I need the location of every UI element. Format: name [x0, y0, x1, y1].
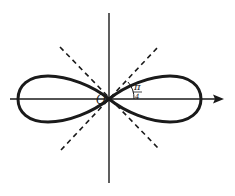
origin-label: O — [96, 93, 106, 107]
angle-label-numerator: π — [133, 81, 141, 92]
lemniscate-diagram: O π 4 — [0, 0, 235, 196]
angle-label-denominator: 4 — [134, 93, 139, 101]
